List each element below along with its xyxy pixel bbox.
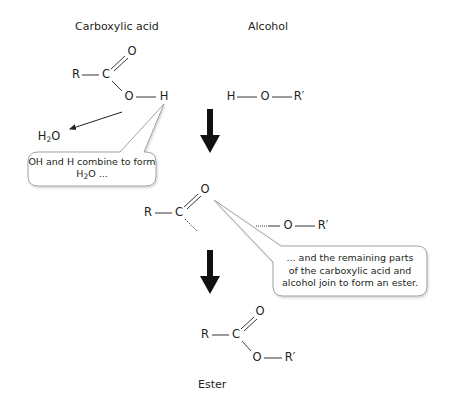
reaction-arrow-1 bbox=[200, 109, 220, 153]
ester-r-prime: R′ bbox=[285, 352, 296, 364]
ester-single-oxygen: O bbox=[252, 352, 261, 364]
intermediate-alkoxy-oxygen: O bbox=[283, 220, 292, 232]
ester-r-group: R bbox=[201, 329, 209, 341]
diagram-canvas bbox=[0, 0, 453, 404]
carboxylic-acid-bonds bbox=[82, 56, 156, 97]
alcohol-heading: Alcohol bbox=[248, 21, 288, 32]
alcohol-r-prime: R′ bbox=[294, 91, 305, 103]
ester-carbonyl-oxygen: O bbox=[255, 306, 264, 318]
intermediate-carbonyl-oxygen: O bbox=[200, 184, 209, 196]
acid-carbon: C bbox=[102, 69, 110, 81]
callout-2-text: ... and the remaining parts of the carbo… bbox=[273, 246, 427, 296]
intermediate-r-group: R bbox=[144, 207, 152, 219]
carboxylic-acid-heading: Carboxylic acid bbox=[75, 21, 159, 32]
intermediate-r-prime: R′ bbox=[318, 220, 329, 232]
acid-hydrogen: H bbox=[160, 91, 169, 103]
intermediate-carbon: C bbox=[175, 207, 183, 219]
water-arrow bbox=[70, 112, 122, 129]
acid-carbonyl-oxygen: O bbox=[127, 46, 136, 58]
acid-r-group: R bbox=[72, 69, 80, 81]
callout-1-text: OH and H combine to form H2O ... bbox=[28, 152, 156, 186]
alcohol-oxygen: O bbox=[260, 91, 269, 103]
ester-bonds bbox=[212, 317, 282, 358]
ester-heading: Ester bbox=[198, 379, 226, 390]
acid-hydroxyl-oxygen: O bbox=[124, 91, 133, 103]
ester-carbon: C bbox=[232, 329, 240, 341]
alcohol-hydrogen: H bbox=[227, 91, 236, 103]
reaction-arrow-2 bbox=[200, 250, 220, 294]
water-formula: H2O bbox=[38, 131, 61, 144]
